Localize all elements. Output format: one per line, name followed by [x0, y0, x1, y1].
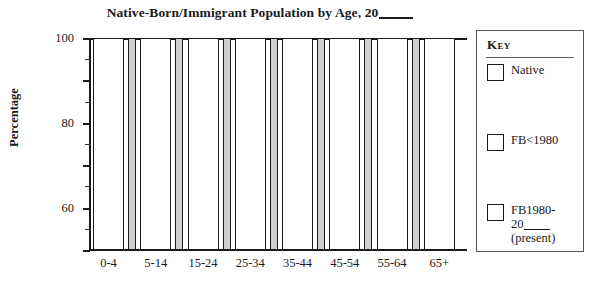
- chart-title: Native-Born/Immigrant Population by Age,…: [55, 5, 465, 21]
- bar-fb-old: [175, 38, 183, 250]
- y-tick-major: 100: [83, 38, 90, 40]
- bar-group: [91, 38, 138, 250]
- bar-native: [377, 38, 408, 250]
- legend-label-fb-new: FB1980- 20 (present): [511, 203, 555, 245]
- y-tick-major: 0: [83, 250, 90, 252]
- legend-label-fb-new-line1: FB1980-: [511, 203, 555, 217]
- bar-fb-old: [128, 38, 136, 250]
- x-tick-label: 55-64: [377, 256, 406, 271]
- bar-group: [186, 38, 233, 250]
- y-tick-minor: [85, 59, 90, 60]
- x-tick-label: 0-4: [100, 256, 117, 271]
- x-axis-labels: 0-45-1415-2425-3435-4445-5455-6465+: [89, 256, 467, 280]
- bar-native: [93, 38, 124, 250]
- y-tick-label: 80: [62, 117, 75, 130]
- bar-native: [282, 38, 313, 250]
- legend-item-native: Native: [487, 63, 544, 81]
- bar-group: [375, 38, 422, 250]
- legend-label-native: Native: [511, 63, 544, 77]
- x-tick-label: 45-54: [330, 256, 359, 271]
- plot-area: 020406080100: [89, 38, 467, 250]
- bar-group: [233, 38, 280, 250]
- bar-native: [235, 38, 266, 250]
- x-tick-label: 15-24: [188, 256, 217, 271]
- legend-label-fb-new-line3: (present): [511, 231, 555, 245]
- bar-fb-old: [364, 38, 372, 250]
- bar-group: [280, 38, 327, 250]
- legend-swatch-native-icon: [487, 64, 504, 81]
- x-tick-label: 5-14: [144, 256, 167, 271]
- bar-native: [424, 38, 455, 250]
- y-tick-major: 60: [83, 123, 90, 125]
- y-tick-minor: [85, 186, 90, 187]
- legend-swatch-fb-old-icon: [487, 134, 504, 151]
- bar-group: [422, 38, 469, 250]
- y-tick-minor: [85, 144, 90, 145]
- chart-title-text: Native-Born/Immigrant Population by Age,…: [107, 5, 379, 20]
- bar-native: [140, 38, 171, 250]
- legend-item-fb-new: FB1980- 20 (present): [487, 203, 555, 245]
- legend-label-fb-old: FB<1980: [511, 133, 558, 147]
- bar-fb-old: [270, 38, 278, 250]
- legend-label-fb-new-line2: 20: [511, 217, 524, 231]
- chart-title-blank: [379, 17, 413, 19]
- legend-label-fb-new-blank: [524, 229, 550, 230]
- y-tick-major: 20: [83, 208, 90, 210]
- y-tick-major: 80: [83, 80, 90, 82]
- legend-swatch-fb-new-icon: [487, 204, 504, 221]
- y-tick-minor: [85, 229, 90, 230]
- y-tick-minor: [85, 102, 90, 103]
- legend-title: Key: [487, 37, 511, 53]
- x-tick-label: 65+: [429, 256, 449, 271]
- bar-group: [138, 38, 185, 250]
- x-tick-label: 25-34: [236, 256, 265, 271]
- bar-native: [188, 38, 219, 250]
- y-tick-label: 100: [55, 32, 74, 45]
- bar-fb-old: [223, 38, 231, 250]
- bar-group: [327, 38, 374, 250]
- bar-fb-old: [412, 38, 420, 250]
- legend-item-fb-old: FB<1980: [487, 133, 558, 151]
- bar-native: [329, 38, 360, 250]
- bar-fb-old: [317, 38, 325, 250]
- chart-figure: Native-Born/Immigrant Population by Age,…: [0, 0, 470, 287]
- y-tick-label: 60: [62, 201, 75, 214]
- legend: Key Native FB<1980 FB1980- 20 (present): [476, 30, 584, 252]
- y-axis-title: Percentage: [7, 73, 22, 163]
- y-tick-major: 40: [83, 165, 90, 167]
- x-tick-label: 35-44: [283, 256, 312, 271]
- legend-title-rule: [486, 57, 574, 58]
